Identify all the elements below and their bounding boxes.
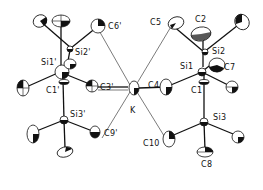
atom-c1p bbox=[59, 80, 69, 85]
atom-c2 bbox=[190, 25, 212, 42]
atom-ellipsoid bbox=[52, 15, 70, 27]
atom-ellipsoid bbox=[160, 79, 172, 95]
label-c9p: C9' bbox=[104, 129, 118, 138]
label-si1: Si1 bbox=[180, 62, 193, 71]
atom-si3 bbox=[200, 118, 208, 126]
label-si2: Si2 bbox=[212, 47, 225, 56]
atom-c8 bbox=[197, 147, 213, 157]
label-si2p: Si2' bbox=[75, 48, 91, 57]
atom-c5 bbox=[166, 15, 185, 32]
atom-c10 bbox=[163, 131, 175, 147]
atom-si1p bbox=[55, 59, 76, 79]
label-c2: C2 bbox=[195, 15, 206, 24]
label-si1p: Si1' bbox=[41, 58, 57, 67]
ortep-diagram: C6' Si2' Si1' C1' C3' Si3' C9' K C4 C5 C… bbox=[0, 0, 263, 190]
atom-c3p bbox=[86, 80, 98, 92]
label-c4: C4 bbox=[148, 81, 159, 90]
atom-si1 bbox=[198, 68, 206, 76]
k-contact-c5 bbox=[136, 25, 172, 85]
label-si3: Si3 bbox=[213, 113, 226, 122]
k-contact-c10 bbox=[137, 92, 166, 139]
label-c8: C8 bbox=[201, 160, 212, 169]
atom-c4-central bbox=[129, 81, 139, 95]
label-c1: C1 bbox=[191, 86, 202, 95]
atom-ellipsoid bbox=[232, 12, 252, 33]
label-c7: C7 bbox=[224, 63, 235, 72]
atom-c7 bbox=[209, 58, 225, 72]
label-c6p: C6' bbox=[108, 22, 122, 31]
atom-c6p bbox=[91, 19, 105, 33]
atom-si2p bbox=[67, 46, 73, 52]
atom-ellipsoid bbox=[17, 80, 29, 96]
k-contact-c6p bbox=[97, 27, 130, 85]
bond bbox=[63, 80, 64, 120]
label-k: K bbox=[130, 106, 136, 115]
atom-ellipsoid bbox=[56, 145, 74, 159]
label-si3p: Si3' bbox=[70, 110, 86, 119]
atom-si2 bbox=[202, 49, 208, 55]
atom-ellipsoid bbox=[27, 125, 39, 143]
atom-ellipsoid bbox=[226, 81, 238, 93]
label-c10: C10 bbox=[143, 139, 160, 148]
label-c3p: C3' bbox=[100, 83, 114, 92]
label-c1p: C1' bbox=[46, 86, 60, 95]
atom-c9p bbox=[90, 126, 100, 138]
label-c5: C5 bbox=[150, 18, 161, 27]
atom-ellipsoid bbox=[232, 131, 244, 143]
atom-c1 bbox=[199, 80, 209, 85]
atom-si3p bbox=[60, 116, 68, 124]
